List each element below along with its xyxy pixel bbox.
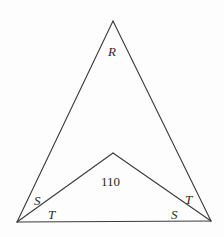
triangle-diagram: R 110 S T T S xyxy=(0,0,224,237)
left-lower-angle-label: T xyxy=(48,207,56,222)
inner-angle-label: 110 xyxy=(101,174,120,189)
left-upper-angle-label: S xyxy=(34,193,41,208)
inner-left-edge xyxy=(17,153,113,222)
outer-left-edge xyxy=(17,21,113,222)
apex-angle-label: R xyxy=(107,44,116,59)
right-upper-angle-label: T xyxy=(185,192,193,207)
inner-right-edge xyxy=(113,153,211,221)
outer-right-edge xyxy=(113,21,211,221)
base-edge xyxy=(17,221,211,222)
right-lower-angle-label: S xyxy=(171,207,178,222)
